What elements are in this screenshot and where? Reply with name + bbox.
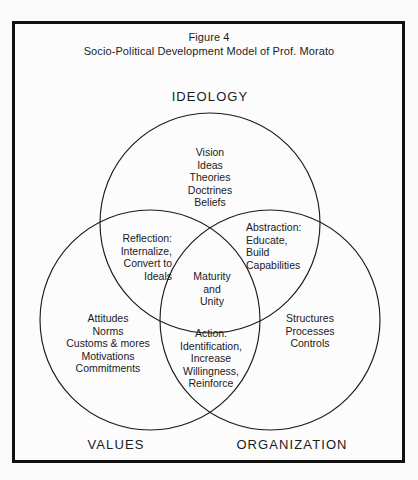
region-text-abstraction: Abstraction: Educate, Build Capabilities xyxy=(246,221,301,271)
region-text-values: Attitudes Norms Customs & mores Motivati… xyxy=(66,312,149,375)
region-text-reflection: Reflection: Internalize, Convert to Idea… xyxy=(121,232,172,282)
set-label-values: VALUES xyxy=(88,437,145,452)
region-text-organization: Structures Processes Controls xyxy=(285,312,334,350)
venn-diagram xyxy=(0,0,418,480)
region-text-ideology: Vision Ideas Theories Doctrines Beliefs xyxy=(188,146,232,209)
set-label-ideology: IDEOLOGY xyxy=(172,89,249,104)
set-label-organization: ORGANIZATION xyxy=(236,437,347,452)
region-text-action: Action: Identification, Increase Willing… xyxy=(180,327,242,390)
region-text-maturity: Maturity and Unity xyxy=(193,270,230,308)
figure-page: Figure 4 Socio-Political Development Mod… xyxy=(0,0,418,480)
